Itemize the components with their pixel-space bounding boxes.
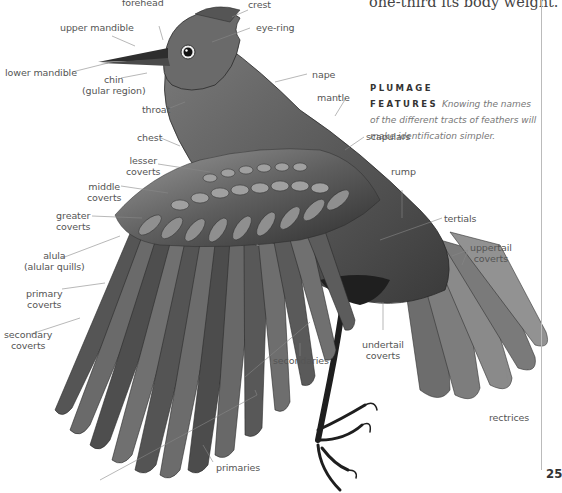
label-secondary-coverts-line1: secondary [4,329,52,340]
label-undertail-coverts: undertail coverts [362,339,404,361]
label-tertials: tertials [444,213,476,224]
label-undertail-coverts-line2: coverts [362,350,404,361]
label-middle-coverts: middle coverts [87,181,121,203]
label-alula-line2: (alular quills) [24,261,85,272]
label-primary-coverts-line1: primary [26,288,62,299]
label-rectrices: rectrices [489,412,529,423]
label-middle-coverts-line2: coverts [87,192,121,203]
page-margin-rule [541,0,542,470]
label-lesser-coverts-line2: coverts [126,166,160,177]
label-greater-coverts-line2: coverts [56,221,90,232]
label-primaries: primaries [216,462,260,473]
caption-heading: PLUMAGE FEATURES [370,83,438,109]
label-scapulars: scapulars [366,131,410,142]
label-primary-coverts-line2: coverts [26,299,62,310]
label-primary-coverts: primary coverts [26,288,62,310]
label-chin-line1: chin [82,74,146,85]
label-middle-coverts-line1: middle [87,181,121,192]
label-chin-line2: (gular region) [82,85,146,96]
label-eye-ring: eye-ring [256,22,295,33]
label-throat: throat [142,104,170,115]
body-text-fragment: one-third its body weight. [369,0,558,10]
label-mantle: mantle [317,92,350,103]
label-forehead: forehead [122,0,164,8]
label-lower-mandible: lower mandible [5,67,77,78]
wing-flight-feathers [55,210,355,478]
label-greater-coverts-line1: greater [56,210,90,221]
page-number: 25 [546,466,562,481]
label-chin: chin (gular region) [82,74,146,96]
label-secondary-coverts: secondary coverts [4,329,52,351]
label-undertail-coverts-line1: undertail [362,339,404,350]
label-uppertail-coverts: uppertail coverts [470,242,512,264]
label-greater-coverts: greater coverts [56,210,90,232]
label-alula-line1: alula [24,250,85,261]
label-secondaries: secondaries [273,355,329,366]
label-rump: rump [391,166,416,177]
label-secondary-coverts-line2: coverts [4,340,52,351]
label-chest: chest [137,132,162,143]
label-alula: alula (alular quills) [24,250,85,272]
label-crest: crest [248,0,271,10]
label-uppertail-coverts-line1: uppertail [470,242,512,253]
label-lesser-coverts: lesser coverts [126,155,160,177]
label-uppertail-coverts-line2: coverts [470,253,512,264]
label-nape: nape [312,69,335,80]
label-upper-mandible: upper mandible [60,22,134,33]
label-lesser-coverts-line1: lesser [126,155,160,166]
